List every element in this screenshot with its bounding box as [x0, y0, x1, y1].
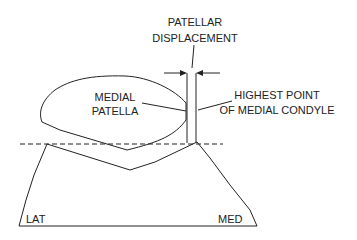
displacement-leader-line	[192, 45, 194, 68]
med-label: MED	[218, 213, 243, 225]
medial-label: MEDIAL	[95, 91, 136, 103]
displacement-label: DISPLACEMENT	[152, 32, 238, 44]
lat-label: LAT	[26, 213, 46, 225]
highest-point-label: HIGHEST POINT	[234, 89, 320, 101]
patella-label: PATELLA	[92, 105, 139, 117]
medial-condyle-label: OF MEDIAL CONDYLE	[219, 104, 334, 116]
medial-patella-leader-line	[142, 103, 186, 111]
right-arrow-icon	[196, 70, 203, 76]
left-arrow-icon	[180, 70, 187, 76]
patellar-displacement-diagram: PATELLAR DISPLACEMENT MEDIAL PATELLA HIG…	[0, 0, 357, 240]
patellar-label: PATELLAR	[168, 16, 223, 28]
